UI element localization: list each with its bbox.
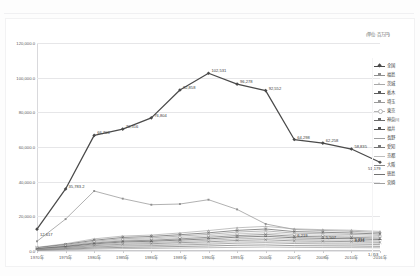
legend-key-icon	[374, 154, 385, 159]
data-point-marker	[350, 238, 353, 239]
x-axis-tick-label: 1989年	[173, 254, 186, 260]
x-axis-tickmark	[209, 251, 210, 253]
legend-item[interactable]: 大阪	[374, 162, 408, 168]
data-point-marker	[150, 204, 152, 206]
data-point-label: 76,804	[154, 112, 167, 117]
data-point-label: 96,278	[240, 79, 253, 84]
data-point-label: 4,221	[354, 237, 364, 242]
legend-item-label: 茨城	[387, 82, 395, 86]
data-point-marker	[179, 240, 182, 241]
legend-key-icon	[374, 127, 385, 132]
legend-item[interactable]: 埼玉	[374, 99, 408, 105]
x-axis-tick-label: 1990年	[202, 254, 215, 260]
legend-item-label: 全国	[387, 64, 395, 68]
legend-item-label: 徳島	[387, 172, 395, 176]
document-header	[0, 0, 420, 14]
data-point-marker	[293, 237, 296, 238]
y-axis-tick-label: 60,000.0	[19, 145, 35, 150]
data-point-label: 66,700	[97, 130, 110, 135]
legend-item[interactable]: 宮崎	[374, 180, 408, 186]
legend-item-label: 栃木	[387, 91, 395, 95]
data-point-label: 35,783.2	[69, 183, 85, 188]
legend-item[interactable]: 京都	[374, 153, 408, 159]
legend-key-icon	[374, 82, 385, 87]
x-axis-tickmark	[266, 251, 267, 253]
legend-key-icon	[374, 109, 385, 114]
legend-item[interactable]: 栃木	[374, 90, 408, 96]
unit-note: (単位:百万円)	[366, 31, 390, 37]
x-axis-tickmark	[237, 251, 238, 253]
x-axis-tick-label: 1986年	[145, 254, 158, 260]
data-point-marker	[150, 241, 153, 242]
data-point-label: 6,219	[297, 232, 307, 237]
legend-item[interactable]: 福島	[374, 72, 408, 78]
data-point-label: 64,298	[297, 134, 310, 139]
data-point-marker	[207, 238, 210, 239]
legend-key-icon	[374, 73, 385, 78]
legend-key-icon	[374, 118, 385, 123]
data-point-label: 58,835	[354, 144, 367, 149]
data-point-marker	[122, 198, 124, 200]
legend-item-label: 大阪	[387, 163, 395, 167]
legend-item-label: 東京	[387, 109, 395, 113]
x-axis-tick-label: 2010年	[345, 254, 358, 260]
legend-key-icon	[374, 172, 385, 177]
x-axis-tickmark	[380, 251, 381, 253]
plot-area: 0.020,000.040,000.060,000.080,000.0100,0…	[37, 43, 380, 251]
y-axis-tick-label: 40,000.0	[19, 179, 35, 184]
chart-page: (単位:百万円) 0.020,000.040,000.060,000.080,0…	[0, 0, 420, 276]
x-axis-tickmark	[94, 251, 95, 253]
legend-key-icon	[374, 181, 385, 186]
data-point-label: 70,316	[126, 124, 139, 129]
legend-item[interactable]: 長野	[374, 135, 408, 141]
legend-item[interactable]: 全国	[374, 63, 408, 69]
data-point-marker	[235, 82, 239, 86]
data-point-label: 5,507	[326, 234, 336, 239]
data-point-marker	[265, 223, 267, 225]
data-point-marker	[322, 238, 325, 239]
legend-item[interactable]: 茨城	[374, 81, 408, 87]
legend-item-label: 神奈川	[387, 118, 399, 122]
legend-key-icon	[374, 64, 385, 69]
data-point-label: 92,858	[183, 85, 196, 90]
plot-inner: 0.020,000.040,000.060,000.080,000.0100,0…	[37, 43, 380, 251]
header-divider	[4, 13, 414, 14]
data-point-marker	[321, 141, 325, 145]
legend-key-icon	[374, 163, 385, 168]
data-point-label: 1,853	[368, 251, 378, 256]
series-layer	[37, 43, 380, 251]
series-line	[37, 73, 380, 229]
y-axis-tick-label: 20,000.0	[19, 214, 35, 219]
data-point-marker	[264, 236, 267, 237]
legend-item-label: 愛知	[387, 145, 395, 149]
chart-legend: 全国福島茨城栃木埼玉東京神奈川福井長野愛知京都大阪徳島宮崎	[374, 63, 408, 186]
y-axis-tick-label: 0.0	[29, 249, 35, 254]
data-point-marker	[121, 127, 125, 131]
legend-item[interactable]: 神奈川	[374, 117, 408, 123]
x-axis-tickmark	[180, 251, 181, 253]
legend-item[interactable]: 徳島	[374, 171, 408, 177]
legend-item-label: 長野	[387, 136, 395, 140]
data-point-marker	[93, 243, 96, 244]
legend-item-label: 京都	[387, 154, 395, 158]
y-axis-tick-label: 120,000.0	[16, 41, 35, 46]
data-point-marker	[65, 218, 67, 220]
x-axis-tick-label: 1975年	[59, 254, 72, 260]
data-point-marker	[121, 242, 124, 243]
data-point-marker	[379, 239, 382, 240]
legend-key-icon	[374, 100, 385, 105]
data-point-label: 12,617	[40, 232, 53, 237]
data-point-marker	[93, 190, 95, 192]
data-point-marker	[36, 240, 38, 242]
x-axis-tickmark	[66, 251, 67, 253]
legend-divider	[372, 58, 373, 258]
x-axis-tick-label: 2007年	[288, 254, 301, 260]
data-point-marker	[236, 208, 238, 210]
data-point-marker	[236, 237, 239, 238]
legend-item[interactable]: 愛知	[374, 144, 408, 150]
legend-item[interactable]: 福井	[374, 126, 408, 132]
legend-key-icon	[374, 136, 385, 141]
legend-key-icon	[374, 145, 385, 150]
data-point-label: 62,258	[326, 138, 339, 143]
legend-item[interactable]: 東京	[374, 108, 408, 114]
